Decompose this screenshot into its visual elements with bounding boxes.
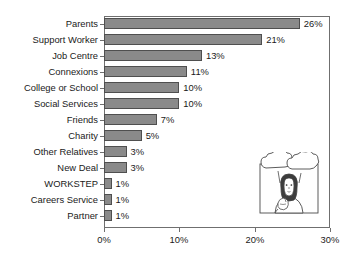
x-axis-tick	[330, 228, 331, 232]
x-axis-tick	[104, 228, 105, 232]
x-axis-tick-label: 30%	[310, 233, 350, 246]
x-axis-tick-label: 0%	[84, 233, 124, 246]
x-axis-tick	[255, 228, 256, 232]
thinking-person-illustration	[256, 152, 322, 214]
x-axis: 0%10%20%30%	[0, 0, 350, 255]
x-axis-tick	[179, 228, 180, 232]
x-axis-tick-label: 10%	[159, 233, 199, 246]
x-axis-tick-label: 20%	[235, 233, 275, 246]
